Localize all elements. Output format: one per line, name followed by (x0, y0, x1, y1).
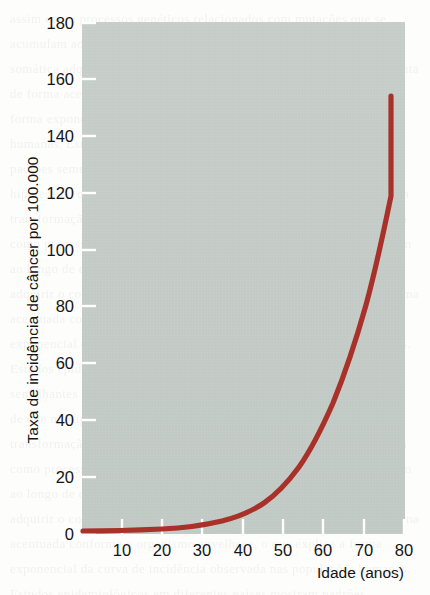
y-tick-label: 80 (56, 297, 74, 315)
y-tick-label: 160 (46, 70, 74, 88)
x-tick-label: 30 (193, 541, 211, 559)
y-tick-label: 120 (46, 184, 74, 202)
y-tick-label: 20 (56, 468, 74, 486)
y-tick-label: 0 (65, 525, 74, 543)
x-tick-labels: 10 20 30 40 50 60 70 80 (113, 541, 413, 559)
x-tick-label: 80 (395, 541, 413, 559)
x-tick-label: 60 (314, 541, 332, 559)
y-tick-labels: 0 20 40 60 80 100 120 140 160 180 (46, 14, 74, 543)
plot-area (82, 22, 405, 534)
x-tick-label: 20 (153, 541, 171, 559)
cancer-incidence-figure: 0 20 40 60 80 100 120 140 160 180 10 20 … (0, 0, 430, 595)
y-tick-label: 100 (46, 241, 74, 259)
x-axis-title: Idade (anos) (317, 564, 404, 581)
x-tick-label: 70 (355, 541, 373, 559)
y-tick-label: 40 (56, 411, 74, 429)
cancer-incidence-chart: 0 20 40 60 80 100 120 140 160 180 10 20 … (0, 0, 430, 595)
y-axis-title: Taxa de incidência de câncer por 100.000 (24, 156, 41, 443)
y-tick-label: 140 (46, 127, 74, 145)
y-tick-label: 180 (46, 14, 74, 32)
x-tick-label: 50 (274, 541, 292, 559)
x-tick-label: 40 (234, 541, 252, 559)
y-tick-label: 60 (56, 354, 74, 372)
x-tick-label: 10 (113, 541, 131, 559)
